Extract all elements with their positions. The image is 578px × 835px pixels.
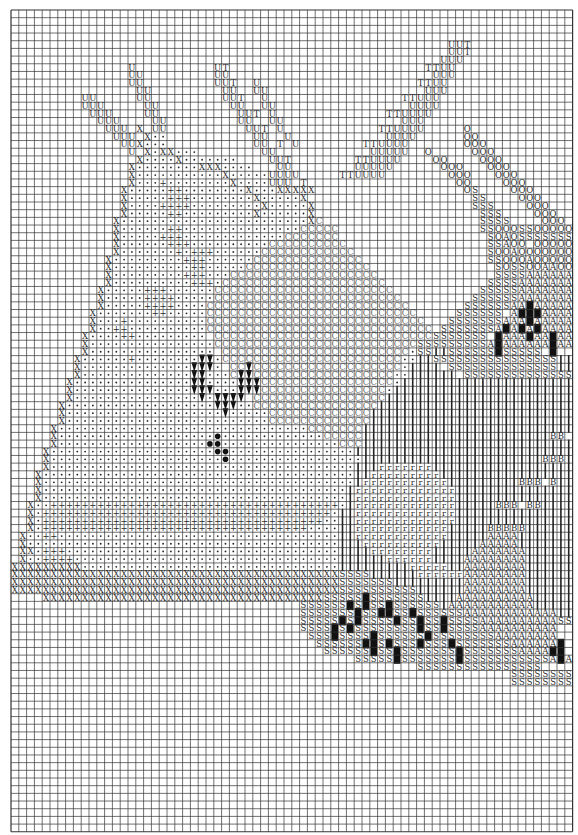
stitch-dot: [131, 220, 133, 222]
stitch-dot: [201, 243, 203, 245]
stitch-dot: [186, 443, 188, 445]
stitch-dot: [225, 182, 227, 184]
stitch-dot: [240, 213, 242, 215]
stitch-dot: [217, 543, 219, 545]
stitch-dot: [84, 412, 86, 414]
stitch-dot: [264, 213, 266, 215]
stitch-dot: [154, 389, 156, 391]
stitch-dot: [154, 497, 156, 499]
stitch-dot: [186, 458, 188, 460]
stitch-dot: [162, 220, 164, 222]
stitch-dot: [318, 489, 320, 491]
stitch-dot: [209, 489, 211, 491]
stitch-dot: [131, 443, 133, 445]
stitch-dot: [69, 443, 71, 445]
stitch-dot: [209, 343, 211, 345]
stitch-dot: [217, 428, 219, 430]
stitch-dot: [318, 535, 320, 537]
stitch-dot: [303, 443, 305, 445]
stitch-dot: [37, 558, 39, 560]
stitch-dot: [248, 497, 250, 499]
stitch-dot: [256, 236, 258, 238]
stitch-dot: [334, 474, 336, 476]
stitch-dot: [84, 466, 86, 468]
stitch-dot: [232, 543, 234, 545]
stitch-dot: [248, 535, 250, 537]
stitch-dot: [178, 351, 180, 353]
stitch-dot: [209, 558, 211, 560]
stitch-dot: [186, 551, 188, 553]
stitch-dot: [287, 205, 289, 207]
stitch-dot: [178, 489, 180, 491]
stitch-dot: [170, 389, 172, 391]
stitch-dot: [147, 182, 149, 184]
stitch-dot: [186, 466, 188, 468]
stitch-dot: [123, 458, 125, 460]
stitch-dot: [232, 412, 234, 414]
stitch-dot: [287, 466, 289, 468]
stitch-dot: [37, 528, 39, 530]
stitch-dot: [295, 489, 297, 491]
stitch-dot: [139, 213, 141, 215]
stitch-dot: [154, 159, 156, 161]
stitch-dot: [201, 190, 203, 192]
stitch-dot: [248, 205, 250, 207]
stitch-dot: [92, 543, 94, 545]
stitch-dot: [232, 389, 234, 391]
stitch-dot: [170, 535, 172, 537]
stitch-dot: [84, 497, 86, 499]
stitch-dot: [154, 366, 156, 368]
stitch-dot: [326, 520, 328, 522]
stitch-dot: [131, 458, 133, 460]
stitch-dot: [232, 174, 234, 176]
stitch-dot: [186, 159, 188, 161]
stitch-dot: [178, 282, 180, 284]
stitch-dot: [123, 374, 125, 376]
stitch-dot: [279, 558, 281, 560]
stitch-dot: [69, 458, 71, 460]
stitch-dot: [193, 489, 195, 491]
stitch-dot: [271, 443, 273, 445]
stitch-dot: [256, 443, 258, 445]
stitch-dot: [264, 543, 266, 545]
stitch-dot: [154, 259, 156, 261]
stitch-dot: [100, 466, 102, 468]
stitch-dot: [256, 497, 258, 499]
stitch-dot: [123, 343, 125, 345]
stitch-dot: [147, 481, 149, 483]
stitch-dot: [326, 535, 328, 537]
stitch-dot: [201, 312, 203, 314]
stitch-dot: [123, 428, 125, 430]
stitch-triangle-icon: [230, 401, 236, 411]
stitch-dot: [201, 320, 203, 322]
stitch-dot: [264, 220, 266, 222]
stitch-dot: [318, 481, 320, 483]
stitch-dot: [61, 451, 63, 453]
stitch-dot: [193, 289, 195, 291]
stitch-dot: [201, 205, 203, 207]
stitch-dot: [170, 405, 172, 407]
stitch-dot: [209, 435, 211, 437]
stitch-dot: [154, 144, 156, 146]
stitch-dot: [69, 420, 71, 422]
stitch-dot: [178, 343, 180, 345]
stitch-dot: [193, 359, 195, 361]
stitch-dot: [186, 489, 188, 491]
stitch-dot: [225, 220, 227, 222]
stitch-dot: [170, 458, 172, 460]
stitch-dot: [92, 535, 94, 537]
stitch-dot: [139, 274, 141, 276]
stitch-dot: [232, 497, 234, 499]
stitch-dot: [139, 236, 141, 238]
stitch-dot: [115, 382, 117, 384]
stitch-dot: [248, 420, 250, 422]
stitch-dot: [162, 259, 164, 261]
stitch-dot: [193, 451, 195, 453]
stitch-triangle-icon: [223, 408, 229, 418]
stitch-dot: [45, 489, 47, 491]
stitch-dot: [123, 305, 125, 307]
stitch-dot: [279, 497, 281, 499]
stitch-dot: [225, 205, 227, 207]
stitch-dot: [115, 336, 117, 338]
stitch-dot: [162, 489, 164, 491]
